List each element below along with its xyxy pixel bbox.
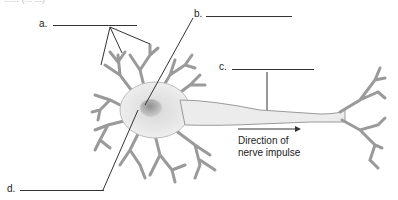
nucleus — [140, 99, 162, 117]
blank-c[interactable] — [232, 69, 314, 70]
caption-line-2: nerve impulse — [238, 147, 300, 159]
blank-a[interactable] — [53, 25, 137, 26]
axon — [180, 100, 345, 125]
direction-caption: Direction of nerve impulse — [238, 135, 300, 159]
label-a: a. — [39, 19, 47, 29]
label-d: d. — [7, 184, 15, 194]
label-b: b. — [194, 9, 202, 19]
blank-b[interactable] — [206, 16, 292, 17]
axon-terminals — [340, 68, 385, 168]
label-c: c. — [219, 62, 227, 72]
blank-d[interactable] — [20, 190, 104, 191]
neuron-illustration — [0, 0, 398, 200]
caption-line-1: Direction of — [238, 135, 300, 147]
